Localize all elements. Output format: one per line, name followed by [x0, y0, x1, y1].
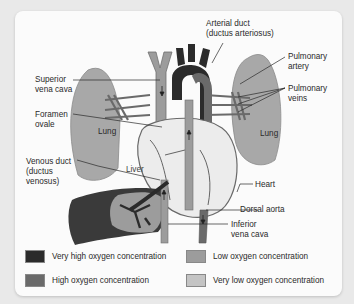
legend-high-oxygen: High oxygen concentration: [25, 274, 149, 287]
label-superior-vena-cava: Superior vena cava: [35, 75, 72, 95]
label-lung-right: Lung: [260, 129, 278, 139]
central-vessel: [185, 100, 193, 210]
label-pulmonary-veins: Pulmonary veins: [288, 84, 327, 104]
label-inferior-vena-cava: Inferior vena cava: [231, 220, 268, 240]
label-arterial-duct: Arterial duct (ductus arteriosus): [206, 19, 274, 39]
label-lung-left: Lung: [98, 127, 116, 137]
superior-vena-cava-shape: [148, 52, 172, 128]
right-lung-shape: [232, 55, 281, 165]
legend-swatch-low: [186, 250, 206, 263]
label-liver: Liver: [126, 165, 144, 175]
inferior-vena-cava-shape: [161, 180, 168, 243]
label-dorsal-aorta: Dorsal aorta: [240, 205, 285, 215]
legend-very-high-oxygen: Very high oxygen concentration: [25, 250, 166, 263]
label-foramen-ovale: Foramen ovale: [35, 110, 68, 130]
label-pulmonary-artery: Pulmonary artery: [288, 52, 327, 72]
label-heart: Heart: [255, 180, 275, 190]
legend-low-oxygen: Low oxygen concentration: [186, 250, 308, 263]
legend-label-very-low: Very low oxygen concentration: [213, 276, 324, 285]
dorsal-aorta-shape: [199, 210, 208, 243]
label-venous-duct: Venous duct (ductus venosus): [26, 157, 71, 187]
legend-swatch-high: [25, 274, 45, 287]
legend-very-low-oxygen: Very low oxygen concentration: [186, 274, 324, 287]
legend-label-very-high: Very high oxygen concentration: [52, 252, 166, 261]
legend-label-high: High oxygen concentration: [52, 276, 149, 285]
legend-swatch-very-high: [25, 250, 45, 263]
left-lung-shape: [71, 68, 120, 180]
aortic-branches: [176, 44, 210, 68]
legend-swatch-very-low: [186, 274, 206, 287]
legend-label-low: Low oxygen concentration: [213, 252, 308, 261]
